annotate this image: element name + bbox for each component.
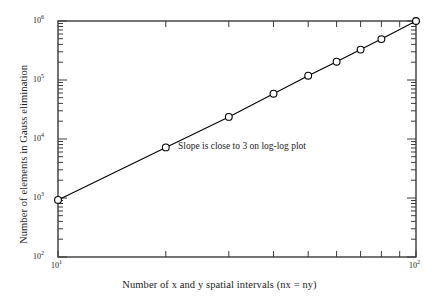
data-point bbox=[270, 90, 277, 97]
data-point bbox=[413, 18, 420, 25]
data-point bbox=[378, 36, 385, 43]
plot-frame bbox=[58, 21, 416, 257]
axes-border bbox=[58, 21, 416, 257]
y-axis-title: Number of elements in Gauss elimination bbox=[18, 65, 29, 244]
y-tick-label-1e4: 104 bbox=[33, 135, 44, 143]
data-series bbox=[55, 18, 420, 204]
y-tick-label-1e2: 102 bbox=[33, 253, 44, 261]
data-point bbox=[305, 72, 312, 79]
data-point bbox=[357, 46, 364, 53]
x-tick-label-1e2: 102 bbox=[409, 262, 420, 270]
data-point bbox=[333, 58, 340, 65]
data-point bbox=[162, 144, 169, 151]
figure-container: 106 105 104 103 102 101 102 Slope is clo… bbox=[0, 0, 439, 303]
y-tick-label-1e6: 106 bbox=[33, 17, 44, 25]
y-axis-ticks bbox=[58, 21, 416, 257]
x-axis-title: Number of x and y spatial intervals (nx … bbox=[0, 279, 439, 290]
y-tick-label-1e3: 103 bbox=[33, 194, 44, 202]
data-point bbox=[55, 197, 62, 204]
data-point bbox=[225, 114, 232, 121]
x-tick-label-1e1: 101 bbox=[51, 262, 62, 270]
slope-annotation: Slope is close to 3 on log-log plot bbox=[178, 141, 306, 151]
x-axis-ticks bbox=[58, 21, 416, 257]
y-tick-label-1e5: 105 bbox=[33, 76, 44, 84]
log-log-plot bbox=[0, 0, 439, 303]
